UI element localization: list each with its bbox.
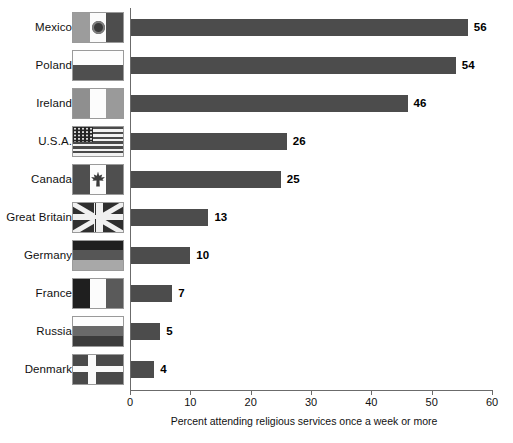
bar [130,247,190,264]
x-axis-tick-label: 40 [365,396,377,408]
flag-poland-icon [72,50,124,81]
bar-track: 5 [130,312,513,350]
bar-track: 7 [130,274,513,312]
x-axis-tick [371,390,372,395]
bar-chart: Mexico56Poland54Ireland46U.S.A.26Canada2… [0,0,513,443]
flag-denmark-icon [72,354,124,385]
bar [130,361,154,378]
table-row: Ireland46 [0,84,513,122]
x-axis-tick-label: 20 [245,396,257,408]
country-label: France [0,287,72,299]
x-axis-tick-label: 0 [127,396,133,408]
flag-ireland-icon [72,88,124,119]
country-label: Great Britain [0,211,72,223]
x-axis-tick [492,390,493,395]
country-label: Denmark [0,363,72,375]
bar-value-label: 54 [462,59,475,71]
bar-track: 46 [130,84,513,122]
bar [130,209,208,226]
table-row: Canada25 [0,160,513,198]
table-row: Germany10 [0,236,513,274]
bar-value-label: 10 [196,249,209,261]
flag-france-icon [72,278,124,309]
x-axis-tick [432,390,433,395]
bar [130,95,408,112]
plot-area: Mexico56Poland54Ireland46U.S.A.26Canada2… [0,8,513,390]
table-row: Denmark4 [0,350,513,388]
country-label: Canada [0,173,72,185]
table-row: Poland54 [0,46,513,84]
bar-track: 13 [130,198,513,236]
table-row: U.S.A.26 [0,122,513,160]
x-axis-tick-label: 50 [426,396,438,408]
bar-value-label: 5 [166,325,172,337]
country-label: Germany [0,249,72,261]
x-axis-title: Percent attending religious services onc… [0,415,513,427]
x-axis-tick [311,390,312,395]
flag-usa-icon [72,126,124,157]
flag-great-britain-icon [72,202,124,233]
x-axis-tick-label: 60 [486,396,498,408]
country-label: Ireland [0,97,72,109]
bar [130,285,172,302]
country-label: Mexico [0,21,72,33]
table-row: Great Britain13 [0,198,513,236]
bar-value-label: 4 [160,363,166,375]
x-axis-tick-label: 30 [305,396,317,408]
bar-track: 25 [130,160,513,198]
flag-russia-icon [72,316,124,347]
flag-germany-icon [72,240,124,271]
x-axis-tick [130,390,131,395]
bar-value-label: 56 [474,21,487,33]
bar [130,19,468,36]
y-axis-line [130,8,131,390]
bar [130,171,281,188]
country-label: Poland [0,59,72,71]
country-label: U.S.A. [0,135,72,147]
flag-canada-icon [72,164,124,195]
x-axis-tick [251,390,252,395]
table-row: Mexico56 [0,8,513,46]
bar [130,133,287,150]
bar-track: 26 [130,122,513,160]
bar [130,57,456,74]
country-label: Russia [0,325,72,337]
bar-value-label: 25 [287,173,300,185]
bar-value-label: 13 [214,211,227,223]
bar [130,323,160,340]
bar-value-label: 26 [293,135,306,147]
bar-track: 4 [130,350,513,388]
x-axis-tick [190,390,191,395]
bar-track: 56 [130,8,513,46]
table-row: France7 [0,274,513,312]
table-row: Russia5 [0,312,513,350]
flag-mexico-icon [72,12,124,43]
x-axis-tick-label: 10 [184,396,196,408]
bar-value-label: 46 [414,97,427,109]
bar-track: 10 [130,236,513,274]
bar-value-label: 7 [178,287,184,299]
bar-track: 54 [130,46,513,84]
